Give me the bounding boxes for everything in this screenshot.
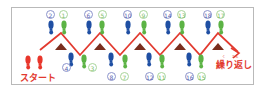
step-number-18: 18: [203, 10, 212, 19]
step-number-17: 17: [216, 10, 225, 19]
step-number-2: 2: [46, 10, 55, 19]
step-number-7: 7: [120, 72, 129, 81]
footprint-8-icon: [108, 53, 113, 67]
triangle-markers: [55, 43, 224, 50]
footprint-12-icon: [146, 53, 151, 67]
step-number-11: 11: [157, 72, 166, 81]
step-number-6: 6: [84, 10, 93, 19]
step-number-3: 3: [88, 63, 97, 72]
footprint-7-icon: [122, 55, 127, 69]
step-number-9: 9: [139, 10, 148, 19]
footprint-17-icon: [218, 21, 223, 35]
footstep-diagram: 2 1 6 5 10 9 14 13 18 17 4 3 8 7 12 11 1…: [0, 0, 264, 92]
triangle-icon: [174, 43, 186, 50]
step-number-12: 12: [145, 72, 154, 81]
footprint-16-icon: [186, 53, 191, 67]
footprint-3-icon: [81, 55, 86, 69]
start-label: スタート: [20, 71, 56, 84]
triangle-icon: [94, 43, 106, 50]
step-number-15: 15: [197, 72, 206, 81]
step-number-10: 10: [123, 10, 132, 19]
triangle-icon: [55, 43, 67, 50]
step-number-14: 14: [163, 10, 172, 19]
start-foot-left-icon: [25, 56, 30, 70]
footprint-11-icon: [159, 55, 164, 69]
repeat-label: 繰り返し: [216, 58, 252, 71]
step-number-5: 5: [98, 10, 107, 19]
footprint-1-icon: [61, 21, 66, 35]
step-number-13: 13: [177, 10, 186, 19]
step-number-1: 1: [59, 10, 68, 19]
footprint-14-icon: [165, 21, 170, 35]
footprint-10-icon: [125, 21, 130, 35]
triangle-icon: [212, 43, 224, 50]
zigzag-path-line: [40, 33, 238, 55]
footprint-9-icon: [141, 21, 146, 35]
footprint-15-icon: [198, 55, 203, 69]
step-number-16: 16: [185, 72, 194, 81]
footprint-18-icon: [205, 21, 210, 35]
footprint-6-icon: [86, 21, 91, 35]
start-foot-right-icon: [37, 56, 42, 70]
footprint-2-icon: [48, 21, 53, 35]
step-number-8: 8: [107, 72, 116, 81]
step-number-4: 4: [62, 63, 71, 72]
triangle-icon: [134, 43, 146, 50]
